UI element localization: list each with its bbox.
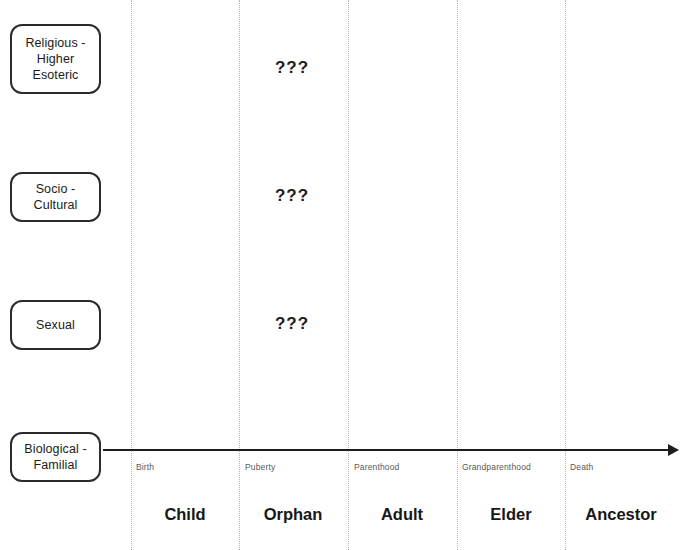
event-label-parenthood: Parenthood (354, 462, 399, 472)
dimension-box-biological-familial[interactable]: Biological - Familial (10, 432, 101, 482)
gridline-3 (457, 0, 458, 550)
unknown-marker-sexual: ??? (275, 314, 309, 334)
timeline-axis (103, 444, 679, 458)
stage-label-child: Child (164, 505, 205, 524)
dimension-box-sexual-label: Sexual (36, 317, 75, 333)
stage-label-adult: Adult (381, 505, 423, 524)
stage-label-ancestor: Ancestor (585, 505, 657, 524)
axis-line (103, 449, 669, 451)
event-label-grandparenthood: Grandparenthood (462, 462, 531, 472)
event-label-birth: Birth (136, 462, 154, 472)
stage-label-orphan: Orphan (264, 505, 323, 524)
dimension-box-sexual[interactable]: Sexual (10, 300, 101, 350)
event-label-puberty: Puberty (245, 462, 275, 472)
dimension-box-religious-label: Religious - Higher Esoteric (25, 35, 85, 83)
gridline-4 (565, 0, 566, 550)
event-label-death: Death (570, 462, 593, 472)
gridline-1 (239, 0, 240, 550)
dimension-box-religious[interactable]: Religious - Higher Esoteric (10, 24, 101, 94)
gridline-0 (131, 0, 132, 550)
life-stage-diagram: Religious - Higher Esoteric Socio - Cult… (0, 0, 681, 550)
dimension-box-socio-cultural[interactable]: Socio - Cultural (10, 172, 101, 222)
dimension-box-socio-cultural-label: Socio - Cultural (34, 181, 78, 213)
unknown-marker-socio: ??? (275, 186, 309, 206)
gridline-2 (348, 0, 349, 550)
axis-arrow-icon (668, 444, 679, 456)
stage-label-elder: Elder (490, 505, 531, 524)
dimension-box-biological-familial-label: Biological - Familial (24, 441, 86, 473)
unknown-marker-religious: ??? (275, 58, 309, 78)
